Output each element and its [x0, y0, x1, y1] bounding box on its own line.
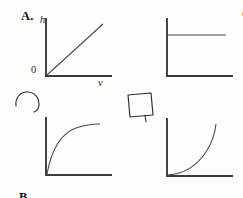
graph-panel-a: A. h v 0	[0, 0, 121, 99]
graph-panel-d: D. h v 0	[121, 95, 242, 194]
graph-panel-c: C. h v 0	[121, 0, 242, 99]
curve-b-concave-down	[47, 124, 100, 174]
origin-label-a: 0	[31, 65, 36, 76]
figure-multiple-choice-graphs: A. h v 0 C. h v 0 B. h v 0	[0, 0, 243, 198]
x-axis-label-a: v	[98, 78, 103, 89]
graph-panel-b: B. h v 0	[0, 95, 121, 194]
graph-c-plot	[121, 0, 242, 99]
panel-letter-a: A.	[21, 10, 34, 23]
panel-letter-c: C.	[242, 8, 243, 21]
curve-a-linear	[47, 24, 103, 75]
curve-d-concave-up	[168, 124, 216, 175]
panel-letter-b: B.	[19, 191, 31, 198]
y-axis-label-a: h	[40, 15, 45, 26]
graph-b-plot	[0, 95, 121, 198]
graph-d-plot	[121, 95, 242, 198]
